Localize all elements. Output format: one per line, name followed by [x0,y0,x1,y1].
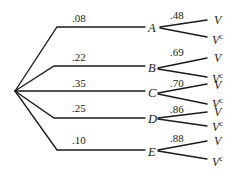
prob-e: .10 [72,134,86,146]
outcome-b-v: V [214,51,223,65]
outcome-d-vc: Vc [212,119,223,134]
probability-tree: .08 .22 .35 .25 .10 A B C D E .48 .69 .7… [0,0,238,173]
prob-d: .25 [72,102,86,114]
branch-e-vc [158,151,207,159]
branch-a-v [160,20,207,27]
node-a: A [147,21,156,35]
prob-b: .22 [72,51,86,63]
prob-a: .08 [72,12,86,24]
node-d: D [147,112,157,126]
node-labels: A B C D E [147,21,157,159]
second-level-probs: .48 .69 .70 .86 .88 [170,9,184,144]
branch-d-vc [158,119,207,126]
prob-c-v: .70 [170,77,184,89]
branch-b-vc [158,69,207,77]
prob-b-v: .69 [170,46,184,58]
prob-e-v: .88 [170,132,184,144]
outcome-c-v: V [214,78,223,92]
outcome-e-vc: Vc [212,154,223,169]
outcome-a-v: V [214,13,223,27]
node-c: C [148,86,157,100]
branch-a-vc [160,28,207,37]
outcome-e-v: V [214,134,223,148]
prob-d-v: .86 [170,103,184,115]
node-b: B [148,61,156,75]
branch-b-v [158,58,207,68]
node-e: E [147,145,156,159]
outcome-a-vc: Vc [212,32,223,47]
first-level-probs: .08 .22 .35 .25 .10 [72,12,86,146]
outcome-d-v: V [214,105,223,119]
outcome-labels: V Vc V Vc V Vc V Vc V Vc [212,13,223,169]
prob-c: .35 [72,77,86,89]
prob-a-v: .48 [170,9,184,21]
